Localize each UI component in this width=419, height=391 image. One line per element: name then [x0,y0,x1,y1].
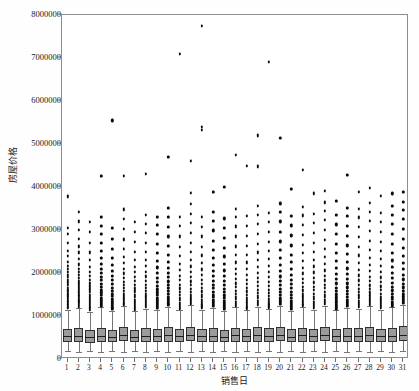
x-tick-mark [156,358,157,362]
y-tick-label: 7000000 [3,52,61,62]
x-tick-label: 31 [399,363,407,372]
x-tick-mark [212,358,213,362]
x-tick-label: 27 [354,363,362,372]
y-tick-label: 8000000 [3,9,61,19]
x-tick-mark [335,358,336,362]
x-tick-mark [190,358,191,362]
x-tick-mark [380,358,381,362]
outlier-point [402,237,404,240]
boxplot-group [62,15,407,357]
x-tick-mark [257,358,258,362]
x-tick-mark [358,358,359,362]
outlier-point [402,273,404,276]
plot-area [61,14,408,358]
x-tick-label: 15 [220,363,228,372]
x-tick-label: 26 [343,363,351,372]
x-tick-mark [302,358,303,362]
outlier-point [402,268,404,271]
outlier-point [402,200,404,203]
x-tick-label: 7 [132,363,136,372]
whisker-lower [403,341,404,351]
x-tick-label: 12 [186,363,194,372]
x-tick-mark [369,358,370,362]
x-tick-label: 11 [175,363,182,372]
x-tick-label: 8 [143,363,147,372]
x-tick-mark [268,358,269,362]
x-tick-label: 29 [376,363,384,372]
x-tick-mark [134,358,135,362]
x-tick-mark [279,358,280,362]
x-tick-mark [402,358,403,362]
x-tick-mark [145,358,146,362]
box [399,326,408,341]
boxplot-chart: 房屋价格 01000000200000030000004000000500000… [0,0,419,391]
x-tick-mark [223,358,224,362]
x-tick-label: 21 [287,363,295,372]
whisker-cap-upper [400,305,406,306]
x-tick-mark [201,358,202,362]
outlier-point [402,295,404,298]
x-tick-label: 5 [109,363,113,372]
y-tick-label: 1000000 [3,310,61,320]
x-tick-label: 2 [76,363,80,372]
y-tick-label: 5000000 [3,138,61,148]
outlier-point [402,261,404,264]
outlier-point [402,191,404,194]
x-tick-label: 10 [164,363,172,372]
x-tick-mark [78,358,79,362]
y-tick-label: 3000000 [3,224,61,234]
y-tick-label: 2000000 [3,267,61,277]
x-tick-mark [391,358,392,362]
outlier-point [402,278,404,281]
x-tick-mark [111,358,112,362]
x-tick-label: 13 [197,363,205,372]
x-tick-mark [67,358,68,362]
x-tick-label: 9 [154,363,158,372]
outlier-point [402,228,404,231]
y-axis: 房屋价格 01000000200000030000004000000500000… [0,0,61,391]
x-tick-mark [313,358,314,362]
x-tick-mark [179,358,180,362]
outlier-point [402,208,404,211]
outlier-point [402,286,404,289]
whisker-cap-lower [400,351,406,352]
x-tick-label: 30 [387,363,395,372]
x-tick-mark [246,358,247,362]
x-tick-label: 4 [98,363,102,372]
x-tick-mark [290,358,291,362]
x-tick-mark [89,358,90,362]
x-tick-label: 1 [65,363,69,372]
outlier-point [402,218,404,221]
y-tick-label: 0 [3,353,61,363]
x-tick-label: 3 [87,363,91,372]
x-tick-label: 20 [276,363,284,372]
x-tick-label: 17 [242,363,250,372]
outlier-point [402,282,404,285]
x-tick-label: 24 [320,363,328,372]
x-tick-mark [235,358,236,362]
x-tick-label: 16 [231,363,239,372]
outlier-point [402,289,404,292]
outlier-point [402,254,404,257]
outlier-point [402,246,404,249]
y-tick-label: 6000000 [3,95,61,105]
x-tick-label: 14 [208,363,216,372]
x-tick-label: 19 [264,363,272,372]
x-tick-mark [123,358,124,362]
outlier-point [402,292,404,295]
x-tick-label: 25 [331,363,339,372]
x-tick-label: 23 [309,363,317,372]
x-tick-mark [167,358,168,362]
x-tick-mark [346,358,347,362]
x-tick-label: 22 [298,363,306,372]
x-tick-label: 28 [365,363,373,372]
boxplot-series [62,15,407,357]
whisker-upper [403,305,404,326]
median-line [399,335,408,336]
x-tick-mark [100,358,101,362]
y-tick-label: 4000000 [3,181,61,191]
x-tick-label: 6 [121,363,125,372]
x-axis-title: 销售日 [61,374,408,387]
x-tick-label: 18 [253,363,261,372]
x-tick-mark [324,358,325,362]
